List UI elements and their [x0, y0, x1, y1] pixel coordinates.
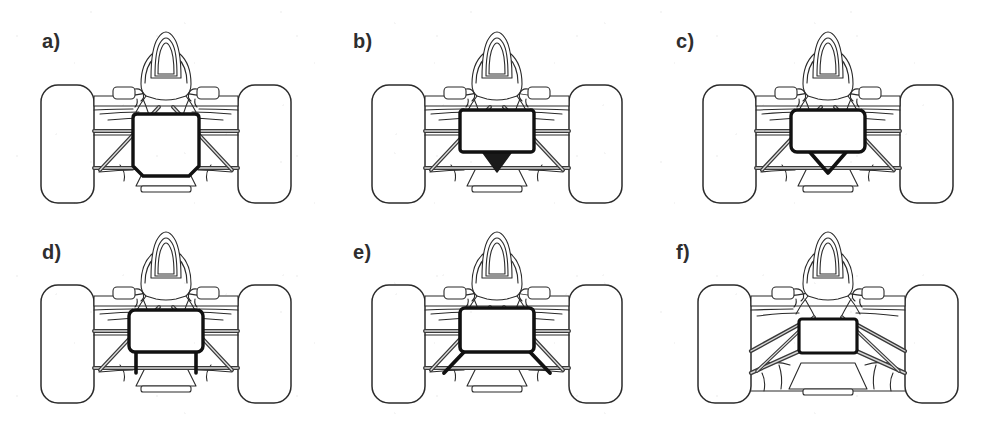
- front-wheel-left: [41, 85, 94, 203]
- mirror-left: [113, 87, 135, 99]
- mirror-right: [859, 87, 881, 99]
- front-wing: [803, 389, 853, 395]
- front-wing: [141, 386, 191, 392]
- panel-c: c): [662, 0, 993, 212]
- front-wheel-left: [698, 285, 751, 403]
- panel-label-f: f): [676, 241, 690, 264]
- mirror-right: [528, 87, 550, 99]
- front-wheel-left: [41, 285, 94, 403]
- mirror-right: [528, 287, 550, 299]
- nose-cone: [136, 368, 196, 386]
- chassis-box-d: [129, 310, 203, 352]
- chassis-box-a: [133, 114, 199, 176]
- front-wheel-right: [900, 85, 953, 203]
- panel-label-d: d): [42, 241, 61, 264]
- front-wing: [141, 186, 191, 192]
- panel-a: a): [0, 0, 331, 212]
- panel-label-a: a): [42, 30, 60, 53]
- nose-cone: [467, 368, 527, 386]
- front-wing: [472, 386, 522, 392]
- front-wheel-right: [569, 85, 622, 203]
- front-wheel-left: [703, 85, 756, 203]
- mirror-left: [775, 87, 797, 99]
- mirror-right: [197, 287, 219, 299]
- panel-label-c: c): [676, 30, 694, 53]
- front-wheel-left: [372, 85, 425, 203]
- front-wheel-right: [905, 285, 958, 403]
- panel-d: d): [0, 213, 331, 425]
- mirror-left: [444, 87, 466, 99]
- nose-cone: [789, 363, 867, 389]
- panel-b: b): [331, 0, 662, 212]
- panel-f: f): [662, 213, 993, 425]
- front-wheel-right: [569, 285, 622, 403]
- front-wing: [803, 186, 853, 192]
- mirror-left: [113, 287, 135, 299]
- mirror-left: [772, 287, 794, 299]
- chassis-box-e: [460, 308, 534, 352]
- panel-e: e): [331, 213, 662, 425]
- suspension-variants-figure: a): [0, 0, 994, 425]
- mirror-left: [444, 287, 466, 299]
- front-wheel-left: [372, 285, 425, 403]
- chassis-box-b: [460, 110, 534, 152]
- front-wheel-right: [238, 85, 291, 203]
- mirror-right: [197, 87, 219, 99]
- front-wing: [472, 186, 522, 192]
- panel-label-e: e): [353, 241, 371, 264]
- chassis-box-f: [799, 319, 857, 353]
- chassis-box-c: [791, 110, 865, 152]
- front-wheel-right: [238, 285, 291, 403]
- mirror-right: [862, 287, 884, 299]
- panel-label-b: b): [353, 30, 372, 53]
